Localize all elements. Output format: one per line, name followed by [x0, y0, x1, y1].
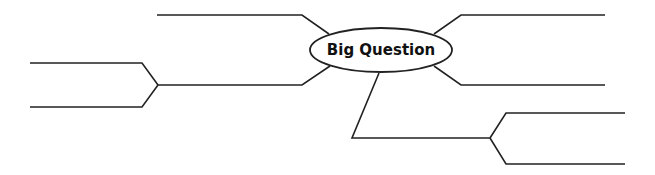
branch-bottom-sub-1-line: [490, 113, 625, 138]
branch-lower-right-line: [434, 66, 605, 85]
branch-bottom-line: [352, 73, 490, 138]
branch-lower-left-sub-2-line: [30, 85, 158, 107]
branch-lower-left-sub-1-line: [30, 63, 158, 85]
branch-upper-right-line: [434, 15, 605, 34]
branch-lower-left-line: [158, 66, 330, 85]
branch-bottom-sub-2-line: [490, 138, 625, 164]
mind-map-diagram: Big Question: [0, 0, 655, 175]
center-label: Big Question: [327, 41, 435, 59]
branch-upper-left-line: [157, 15, 329, 34]
